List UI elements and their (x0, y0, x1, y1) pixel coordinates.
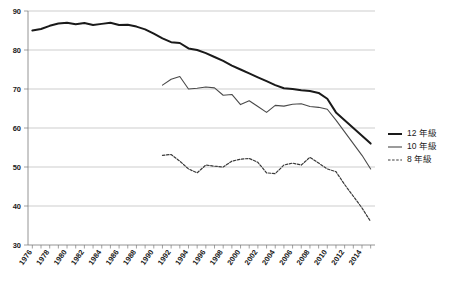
legend-label-2: 8 年級 (407, 154, 432, 164)
x-tick-label-2004: 2004 (260, 247, 277, 267)
x-tick-label-1988: 1988 (121, 248, 138, 267)
y-tick-label-50: 50 (13, 163, 21, 172)
line-chart: 30405060708090 1976197819801982198419861… (0, 0, 457, 285)
y-tick-label-40: 40 (13, 202, 21, 211)
x-tick-label-1978: 1978 (34, 248, 51, 267)
x-tick-label-2012: 2012 (329, 248, 346, 267)
x-tick-label-2006: 2006 (277, 248, 294, 267)
x-tick-label-1976: 1976 (17, 248, 34, 267)
x-axis-ticks: 1976197819801982198419861988199019921994… (17, 245, 371, 267)
x-tick-label-2000: 2000 (225, 248, 242, 267)
x-tick-label-2008: 2008 (295, 248, 312, 267)
series-line-1 (162, 77, 370, 169)
y-tick-label-70: 70 (13, 85, 21, 94)
y-tick-label-90: 90 (13, 7, 21, 16)
chart-container: 30405060708090 1976197819801982198419861… (0, 0, 457, 285)
x-tick-label-1984: 1984 (86, 247, 103, 267)
legend-label-1: 10 年級 (407, 141, 437, 151)
x-tick-label-1998: 1998 (208, 248, 225, 267)
series-line-2 (162, 155, 370, 222)
x-tick-label-1992: 1992 (156, 248, 173, 267)
series-line-0 (32, 23, 370, 144)
x-tick-label-1990: 1990 (138, 248, 155, 267)
data-series-layer (32, 23, 370, 222)
y-tick-label-30: 30 (13, 241, 21, 250)
x-tick-label-2010: 2010 (312, 248, 329, 267)
legend-label-0: 12 年級 (407, 128, 437, 138)
x-tick-label-1994: 1994 (173, 247, 190, 267)
x-tick-label-1982: 1982 (69, 248, 86, 267)
x-tick-label-2002: 2002 (243, 248, 260, 267)
y-axis-ticks: 30405060708090 (13, 7, 28, 250)
y-tick-label-60: 60 (13, 124, 21, 133)
x-tick-label-1986: 1986 (104, 248, 121, 267)
chart-legend: 12 年級10 年級8 年級 (388, 128, 437, 164)
x-tick-label-1996: 1996 (191, 248, 208, 267)
y-tick-label-80: 80 (13, 46, 21, 55)
x-tick-label-1980: 1980 (52, 248, 69, 267)
x-tick-label-2014: 2014 (347, 247, 364, 267)
